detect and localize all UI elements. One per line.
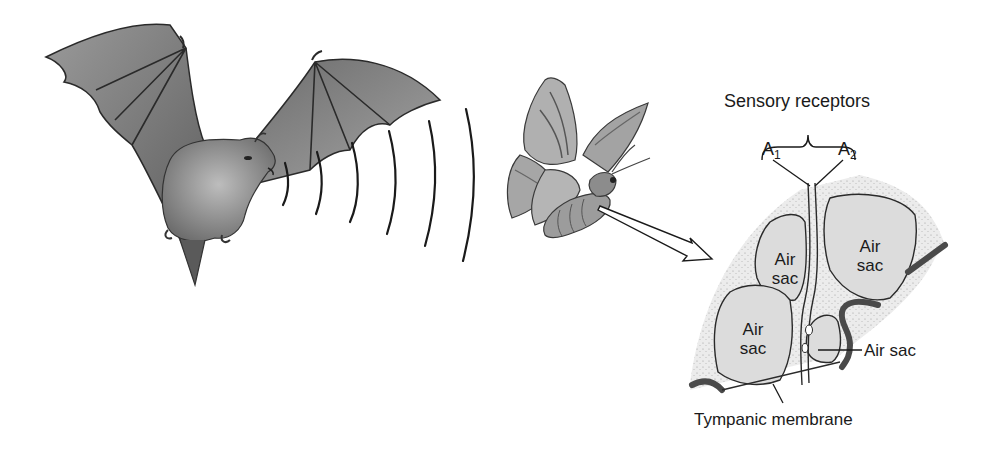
receptor-a1-label: A1 bbox=[762, 140, 781, 161]
sound-wave-4 bbox=[387, 131, 396, 234]
tympanic-membrane-label: Tympanic membrane bbox=[694, 411, 853, 428]
air-sac-upper-left-line1: Air bbox=[769, 250, 801, 269]
receptor-a1-line bbox=[773, 160, 810, 186]
moth-illustration bbox=[507, 78, 650, 238]
receptor-a1-subscript: 1 bbox=[774, 148, 781, 162]
moth-forewing bbox=[524, 78, 577, 165]
moth-eye bbox=[610, 177, 616, 183]
receptor-a2-letter: A bbox=[838, 139, 850, 159]
pointer-arrow bbox=[598, 206, 712, 261]
tympanic-callout-line bbox=[773, 384, 783, 403]
sound-wave-5 bbox=[425, 121, 435, 246]
sound-wave-6 bbox=[463, 109, 474, 261]
moth-thorax bbox=[589, 173, 616, 197]
bat-body bbox=[162, 138, 275, 241]
diagram-canvas bbox=[0, 0, 988, 451]
air-sac-lower-left-line1: Air bbox=[733, 320, 773, 339]
air-sac-upper-right-label: Air sac bbox=[850, 237, 890, 275]
bat-illustration bbox=[46, 24, 440, 285]
receptor-a2-subscript: 2 bbox=[850, 148, 857, 162]
receptor-a1-letter: A bbox=[762, 139, 774, 159]
air-sac-upper-left-label: Air sac bbox=[769, 250, 801, 288]
air-sac-upper-left-line2: sac bbox=[769, 269, 801, 288]
ear-cross-section bbox=[690, 135, 945, 403]
air-sac-callout-label: Air sac bbox=[864, 342, 916, 359]
sound-wave-3 bbox=[350, 143, 358, 222]
receptor-a2-label: A2 bbox=[838, 140, 857, 161]
sensory-receptors-label: Sensory receptors bbox=[724, 92, 870, 110]
air-sac-upper-right-line1: Air bbox=[850, 237, 890, 256]
air-sac-upper-right-line2: sac bbox=[850, 256, 890, 275]
air-sac-lower-left-label: Air sac bbox=[733, 320, 773, 358]
air-sac-lower-left-line2: sac bbox=[733, 339, 773, 358]
